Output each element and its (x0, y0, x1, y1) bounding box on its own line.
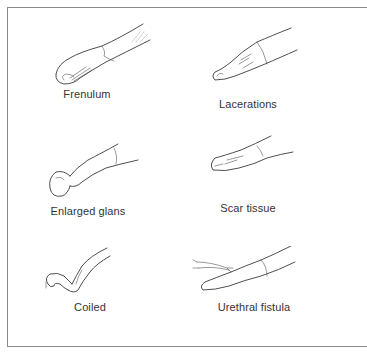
label-scar-tissue: Scar tissue (163, 202, 333, 214)
label-coiled: Coiled (5, 301, 175, 313)
panel-scar-tissue: Scar tissue (175, 128, 345, 238)
panel-lacerations: Lacerations (175, 10, 345, 120)
label-lacerations: Lacerations (163, 98, 333, 110)
panel-enlarged-glans: Enlarged glans (10, 128, 180, 238)
scar-tissue-illustration (175, 128, 345, 238)
enlarged-glans-illustration (10, 128, 180, 238)
panel-coiled: Coiled (10, 246, 180, 355)
frenulum-illustration (10, 10, 180, 120)
label-frenulum: Frenulum (2, 88, 172, 100)
label-enlarged-glans: Enlarged glans (3, 205, 173, 217)
panel-urethral-fistula: Urethral fistula (175, 246, 345, 355)
label-urethral-fistula: Urethral fistula (169, 301, 339, 313)
panel-frenulum: Frenulum (10, 10, 180, 120)
